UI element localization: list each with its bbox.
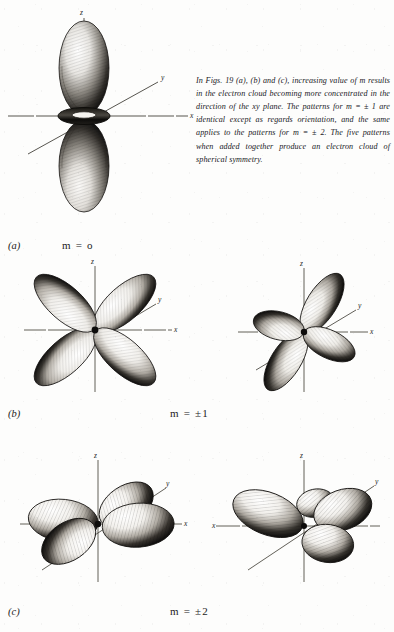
z-axis-label: z — [299, 451, 303, 460]
z-axis-label: z — [79, 8, 83, 17]
z-axis-label: z — [93, 451, 97, 460]
m-value-a: m = o — [62, 239, 94, 251]
x-axis-label: x — [369, 327, 374, 336]
lobes-dxy — [226, 480, 378, 566]
figure-page: In Figs. 19 (a), (b) and (c), increasing… — [0, 0, 394, 632]
orbital-m1-dyz: z y x — [228, 258, 378, 398]
orbital-m0-dz2: z y x — [6, 6, 196, 214]
orbital-m2-dx2y2: z y x — [16, 444, 196, 586]
lobe-z-negative — [59, 120, 109, 212]
x-axis-label: x — [173, 325, 178, 334]
orbital-m1-dxz: z y x — [22, 258, 190, 398]
z-axis-label: z — [90, 257, 94, 266]
panel-label-c: (c) — [8, 606, 20, 617]
y-axis-label: y — [374, 477, 379, 486]
y-axis-label: y — [165, 479, 170, 488]
m-value-b: m = ±1 — [170, 407, 209, 419]
lobe-z-positive — [59, 21, 109, 115]
orbital-m2-dxy: z y x — [212, 444, 390, 586]
x-axis-label: x — [183, 519, 188, 528]
y-axis-label: y — [160, 73, 165, 82]
y-axis-label: y — [357, 301, 362, 310]
x-axis-label: x — [189, 111, 194, 120]
panel-label-b: (b) — [8, 408, 20, 419]
figure-caption: In Figs. 19 (a), (b) and (c), increasing… — [196, 74, 390, 166]
m-value-c: m = ±2 — [170, 605, 209, 617]
y-axis-label: y — [157, 295, 162, 304]
lobes-dx2y2 — [26, 472, 175, 573]
z-axis-label: z — [299, 259, 303, 268]
torus-ring — [58, 108, 110, 125]
x-axis-label: x — [211, 521, 216, 530]
panel-label-a: (a) — [8, 240, 20, 251]
